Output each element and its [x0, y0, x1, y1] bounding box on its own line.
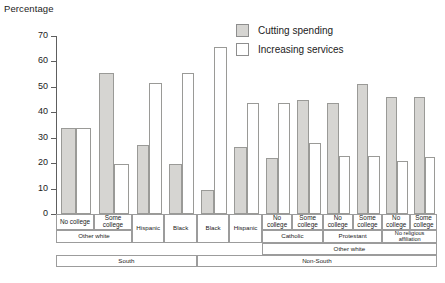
label-religion-protestant: Protestant	[323, 230, 382, 243]
label-education-some-college-protestant: Some college	[353, 214, 383, 230]
bar-cutting-spending	[414, 97, 424, 214]
bar-cutting-spending	[297, 100, 309, 214]
y-tick-mark	[51, 36, 56, 37]
category-label-table: No collegeSome collegeOther whiteHispani…	[56, 214, 437, 266]
bar-increasing-services	[278, 103, 290, 214]
label-religion-catholic: Catholic	[262, 230, 323, 243]
label-ethnicity-hispanic-nonsouth: Hispanic	[229, 214, 261, 243]
legend-swatch-icon-cutting-spending	[236, 24, 249, 37]
chart-figure: Percentage 706050403020100 Cutting spend…	[0, 0, 445, 283]
bar-increasing-services	[149, 83, 162, 214]
bar-cutting-spending	[357, 84, 369, 214]
label-education-some-college-no-affiliation: Some college	[410, 214, 437, 230]
bar-cutting-spending	[266, 158, 278, 214]
label-race-other-white-south: Other white	[56, 230, 132, 243]
y-tick-label: 60	[22, 55, 48, 65]
y-tick-label: 70	[22, 30, 48, 40]
bar-increasing-services	[397, 161, 408, 214]
bar-cutting-spending	[169, 164, 182, 214]
y-tick-label: 10	[22, 183, 48, 193]
legend-label-cutting-spending: Cutting spending	[258, 25, 333, 36]
y-tick-mark	[51, 163, 56, 164]
label-ethnicity-hispanic-south: Hispanic	[132, 214, 164, 243]
label-education-no-college-catholic: No college	[262, 214, 293, 230]
bar-increasing-services	[247, 103, 260, 214]
label-religion-no-affiliation: No religious affiliation	[382, 230, 437, 243]
label-education-some-college-south: Some college	[94, 214, 132, 230]
bar-cutting-spending	[327, 103, 339, 214]
bar-increasing-services	[182, 73, 195, 214]
bar-increasing-services	[368, 156, 380, 214]
label-education-no-college-no-affiliation: No college	[382, 214, 410, 230]
bar-cutting-spending	[99, 73, 114, 214]
bar-increasing-services	[309, 143, 321, 214]
bar-increasing-services	[76, 128, 91, 214]
y-axis-title: Percentage	[4, 3, 54, 14]
y-tick-label: 50	[22, 81, 48, 91]
bar-cutting-spending	[61, 128, 76, 214]
y-tick-label: 0	[22, 208, 48, 218]
chart-legend: Cutting spending Increasing services	[236, 24, 344, 62]
bar-increasing-services	[114, 164, 129, 214]
y-tick-label: 20	[22, 157, 48, 167]
bar-cutting-spending	[201, 190, 214, 214]
label-ethnicity-black-south: Black	[164, 214, 196, 243]
bar-increasing-services	[339, 156, 351, 214]
bar-increasing-services	[425, 157, 435, 214]
label-education-no-college-protestant: No college	[323, 214, 353, 230]
bar-cutting-spending	[137, 145, 150, 214]
legend-swatch-icon-increasing-services	[236, 43, 249, 56]
y-tick-label: 30	[22, 132, 48, 142]
y-tick-mark	[51, 189, 56, 190]
bar-cutting-spending	[386, 97, 397, 214]
label-region-nonsouth: Non-South	[197, 255, 437, 267]
bar-series-area	[57, 36, 437, 214]
legend-label-increasing-services: Increasing services	[258, 44, 344, 55]
y-tick-mark	[51, 87, 56, 88]
y-tick-mark	[51, 112, 56, 113]
label-ethnicity-black-nonsouth: Black	[197, 214, 229, 243]
y-tick-mark	[51, 138, 56, 139]
legend-item-cutting-spending: Cutting spending	[236, 24, 344, 37]
label-region-south: South	[56, 255, 197, 267]
y-tick-mark	[51, 61, 56, 62]
legend-item-increasing-services: Increasing services	[236, 43, 344, 56]
label-race-other-white-nonsouth: Other white	[262, 243, 437, 255]
y-tick-label: 40	[22, 106, 48, 116]
label-education-no-college-south: No college	[56, 214, 94, 230]
bar-increasing-services	[214, 47, 227, 214]
label-education-some-college-catholic: Some college	[292, 214, 323, 230]
bar-cutting-spending	[234, 147, 247, 214]
